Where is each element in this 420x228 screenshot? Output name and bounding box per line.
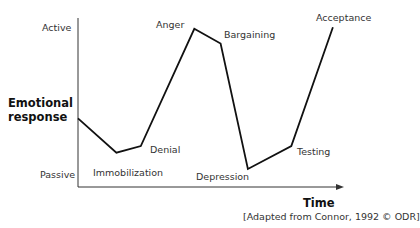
x-axis-arrow-icon (336, 184, 344, 190)
stage-label-testing: Testing (297, 147, 330, 157)
stage-label-anger: Anger (156, 20, 184, 30)
y-axis-title-line1: Emotional (8, 96, 73, 110)
y-axis-title-line2: response (8, 110, 73, 124)
y-axis-top-label: Active (42, 23, 71, 33)
stage-label-immobilization: Immobilization (93, 168, 163, 178)
stage-label-denial: Denial (150, 145, 180, 155)
x-axis-title: Time (303, 196, 335, 210)
y-axis-bottom-label: Passive (40, 170, 75, 180)
stage-label-bargaining: Bargaining (224, 30, 275, 40)
source-caption: [Adapted from Connor, 1992 © ODR] (243, 211, 420, 222)
stage-label-acceptance: Acceptance (316, 13, 371, 23)
change-curve-line (78, 27, 333, 169)
y-axis-title: Emotional response (8, 96, 73, 125)
stage-label-depression: Depression (196, 172, 249, 182)
